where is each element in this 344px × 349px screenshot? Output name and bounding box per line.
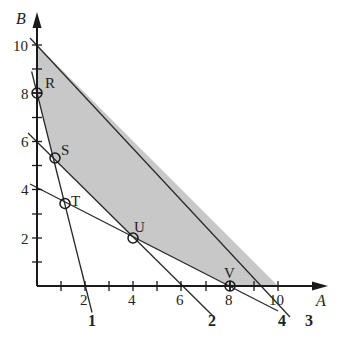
lp-diagram: 10 8 6 4 2 2 4 6 8 10 B A R S T U V 1 2 [0,0,344,349]
point-label-t: T [71,193,80,209]
x-axis-label: A [315,292,326,309]
y-tick-label-2: 2 [21,231,29,247]
line-label-2: 2 [208,312,216,329]
y-tick-label-6: 6 [21,134,29,150]
x-tick-label-8: 8 [225,292,233,308]
y-tick-label-8: 8 [21,86,29,102]
point-label-r: R [45,75,55,91]
y-axis-arrow-icon [33,12,42,28]
x-tick-label-10: 10 [269,292,284,308]
point-label-u: U [134,219,145,235]
point-label-s: S [61,142,69,158]
y-tick-label-4: 4 [21,182,29,198]
x-axis-arrow-icon [312,282,328,291]
constraint-line-3 [30,38,290,317]
line-label-4: 4 [278,312,286,329]
point-label-v: V [224,265,235,281]
x-tick-label-2: 2 [80,292,88,308]
x-tick-label-6: 6 [176,292,184,308]
line-label-3: 3 [305,312,313,329]
y-tick-label-10: 10 [13,38,28,54]
diagram-canvas: 10 8 6 4 2 2 4 6 8 10 B A R S T U V 1 2 [0,0,344,349]
y-axis-label: B [16,10,26,27]
line-label-1: 1 [88,312,96,329]
x-tick-label-4: 4 [128,292,136,308]
